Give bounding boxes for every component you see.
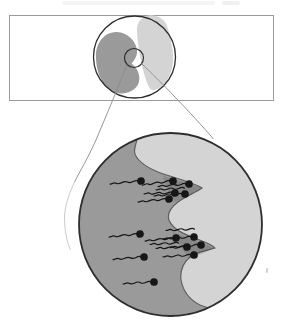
figure-canvas	[0, 0, 287, 332]
magnified-view	[79, 118, 280, 316]
callout-line-left-faint-arc	[65, 182, 75, 250]
fertilization-diagram	[0, 0, 287, 332]
